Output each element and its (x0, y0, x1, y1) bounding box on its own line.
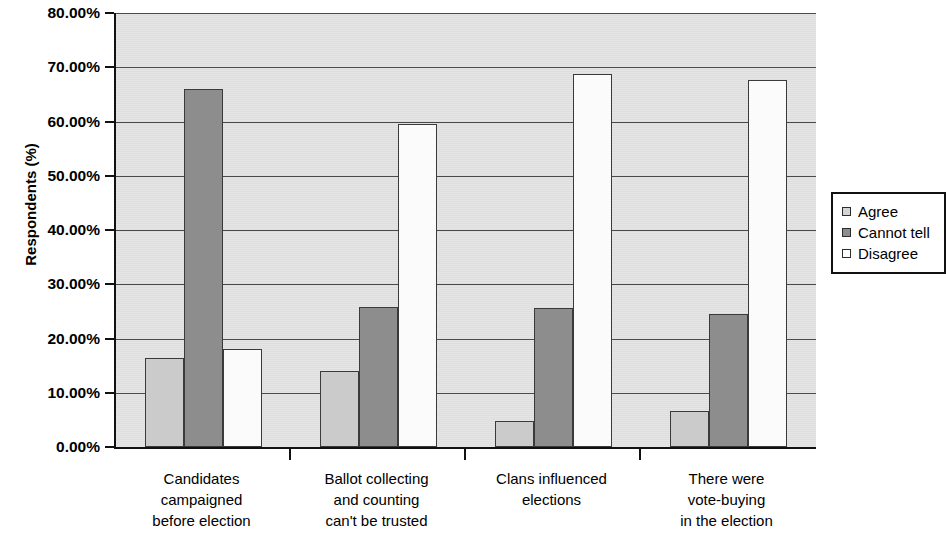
legend-item-label: Disagree (858, 245, 918, 262)
y-axis-tick-label: 50.00% (14, 168, 100, 184)
y-axis-tick-mark (105, 338, 114, 340)
legend-item[interactable]: Disagree (842, 243, 938, 264)
bar (534, 308, 573, 447)
bar (398, 124, 437, 447)
legend-item-label: Cannot tell (858, 224, 930, 241)
y-axis-tick-label: 0.00% (14, 439, 100, 455)
y-axis-tick-label: 20.00% (14, 331, 100, 347)
y-axis-tick-label: 60.00% (14, 114, 100, 130)
y-axis-tick-label: 10.00% (14, 385, 100, 401)
y-axis-tick-mark (105, 392, 114, 394)
y-axis-tick-labels: 0.00%10.00%20.00%30.00%40.00%50.00%60.00… (14, 0, 100, 534)
bar (223, 349, 262, 447)
y-axis-tick-label: 40.00% (14, 222, 100, 238)
y-axis-tick-label: 80.00% (14, 5, 100, 21)
plot-top-border (116, 13, 816, 14)
legend: AgreeCannot tellDisagree (831, 192, 946, 274)
bar (573, 74, 612, 447)
y-axis-tick-label: 70.00% (14, 59, 100, 75)
y-axis-tick-mark (105, 121, 114, 123)
x-axis-group-tick (289, 449, 291, 460)
y-axis-tick-mark (105, 66, 114, 68)
legend-item[interactable]: Cannot tell (842, 222, 938, 243)
bar (359, 307, 398, 448)
x-axis-category-label: There were vote-buying in the election (639, 468, 814, 531)
legend-swatch-icon (842, 228, 851, 237)
y-axis-tick-mark (105, 283, 114, 285)
bar (709, 314, 748, 447)
x-axis-group-tick (639, 449, 641, 460)
bar (320, 371, 359, 447)
legend-item[interactable]: Agree (842, 201, 938, 222)
y-axis-tick-mark (105, 446, 114, 448)
gridline (116, 67, 816, 68)
x-axis-category-label: Candidates campaigned before election (114, 468, 289, 531)
bar (748, 80, 787, 447)
x-axis-category-label: Ballot collecting and counting can't be … (289, 468, 464, 531)
y-axis-tick-label: 30.00% (14, 276, 100, 292)
x-axis-group-tick (464, 449, 466, 460)
bar (495, 421, 534, 447)
bar (145, 358, 184, 447)
plot-area (114, 13, 816, 449)
y-axis-tick-mark (105, 12, 114, 14)
y-axis-tick-mark (105, 229, 114, 231)
legend-item-label: Agree (858, 203, 898, 220)
y-axis-tick-mark (105, 175, 114, 177)
legend-swatch-icon (842, 249, 851, 258)
x-axis-category-label: Clans influenced elections (464, 468, 639, 510)
bar (670, 411, 709, 447)
bar (184, 89, 223, 447)
legend-swatch-icon (842, 207, 851, 216)
